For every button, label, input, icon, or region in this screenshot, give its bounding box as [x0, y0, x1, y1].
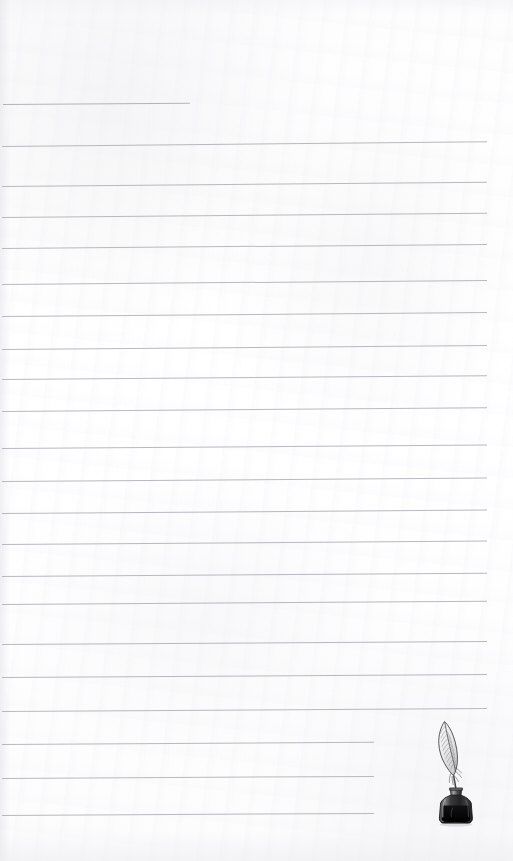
ruled-line	[2, 141, 487, 147]
ruled-line	[2, 601, 487, 605]
ruled-line	[2, 477, 487, 482]
notepaper-page	[0, 0, 513, 861]
ruled-line	[2, 444, 487, 449]
ruled-line	[2, 776, 374, 779]
ruled-line	[2, 510, 487, 514]
ruled-line	[2, 312, 487, 317]
ruled-line	[2, 345, 487, 350]
ruled-line	[2, 541, 487, 545]
ruled-line	[2, 742, 374, 745]
ruled-line	[2, 280, 487, 285]
ruled-line	[2, 573, 487, 577]
ruled-line	[2, 407, 487, 412]
ruled-line	[2, 708, 487, 712]
ruled-line	[2, 182, 487, 187]
ruled-lines-layer	[0, 0, 513, 861]
ruled-line	[2, 641, 487, 645]
ruled-line	[2, 674, 487, 678]
ruled-line	[2, 213, 487, 218]
ruled-line	[2, 244, 487, 249]
ruled-line	[3, 103, 190, 105]
ruled-line	[2, 375, 487, 380]
ruled-line	[2, 813, 374, 816]
